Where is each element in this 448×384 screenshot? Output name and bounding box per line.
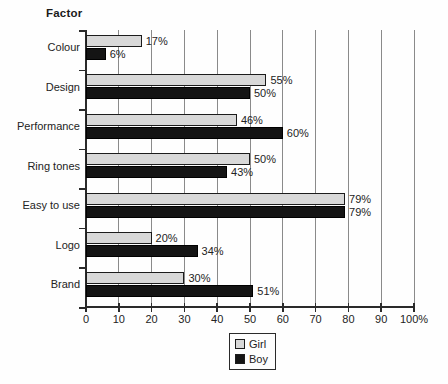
category-tick (79, 188, 85, 190)
x-tick-label-3: 30 (178, 313, 190, 325)
category-label-5: Logo (0, 239, 80, 252)
bar-girl-6-value-label: 30% (188, 272, 210, 284)
gridline-100 (414, 30, 415, 307)
bar-boy-5 (86, 245, 198, 257)
bar-girl-5-value-label: 20% (156, 232, 178, 244)
bar-girl-0 (86, 35, 142, 47)
plot-area: 17%6%55%50%46%60%50%43%79%79%20%34%30%51… (86, 30, 414, 307)
category-label-2: Performance (0, 120, 80, 133)
x-tick-label-8: 80 (342, 313, 354, 325)
legend: GirlBoy (229, 333, 276, 370)
x-axis-tick (249, 303, 251, 312)
x-tick-label-5: 50 (244, 313, 256, 325)
category-label-1: Design (0, 81, 80, 94)
x-axis-tick (348, 303, 350, 312)
bar-girl-6 (86, 272, 184, 284)
gridline-60 (282, 30, 283, 307)
x-axis-tick (282, 303, 284, 312)
bar-boy-2 (86, 127, 283, 139)
x-tick-label-7: 70 (309, 313, 321, 325)
x-axis-tick (118, 303, 120, 312)
bar-boy-3-value-label: 43% (231, 166, 253, 178)
gridline-70 (315, 30, 316, 307)
x-axis-tick (413, 303, 415, 312)
bar-girl-2-value-label: 46% (241, 114, 263, 126)
bar-boy-4 (86, 206, 345, 218)
legend-swatch-boy (235, 354, 245, 364)
category-tick (79, 228, 85, 230)
legend-item-girl: Girl (235, 338, 268, 350)
category-tick (79, 109, 85, 111)
legend-label-boy: Boy (249, 353, 268, 365)
bar-boy-5-value-label: 34% (202, 245, 224, 257)
x-tick-label-9: 90 (375, 313, 387, 325)
x-axis-tick (315, 303, 317, 312)
bar-boy-1-value-label: 50% (254, 87, 276, 99)
bar-girl-5 (86, 232, 152, 244)
legend-item-boy: Boy (235, 353, 268, 365)
x-tick-label-10: 100% (400, 313, 428, 325)
bar-boy-0 (86, 48, 106, 60)
bar-girl-1-value-label: 55% (270, 74, 292, 86)
bar-girl-0-value-label: 17% (146, 35, 168, 47)
legend-swatch-girl (235, 339, 245, 349)
chart-title: Factor (46, 7, 82, 19)
x-tick-label-1: 10 (113, 313, 125, 325)
x-tick-label-4: 40 (211, 313, 223, 325)
bar-boy-4-value-label: 79% (349, 206, 371, 218)
bar-boy-0-value-label: 6% (110, 48, 126, 60)
category-tick (79, 30, 85, 32)
category-tick (79, 267, 85, 269)
x-axis-tick (151, 303, 153, 312)
category-tick (79, 307, 85, 309)
x-axis-tick (85, 303, 87, 312)
legend-label-girl: Girl (249, 338, 266, 350)
x-tick-label-6: 60 (277, 313, 289, 325)
bar-girl-4-value-label: 79% (349, 193, 371, 205)
bar-boy-3 (86, 166, 227, 178)
x-tick-label-0: 0 (83, 313, 89, 325)
category-tick (79, 149, 85, 151)
category-label-3: Ring tones (0, 160, 80, 173)
bar-boy-2-value-label: 60% (287, 127, 309, 139)
bar-chart: Factor 17%6%55%50%46%60%50%43%79%79%20%3… (0, 0, 448, 384)
bar-boy-6 (86, 285, 253, 297)
bar-girl-2 (86, 114, 237, 126)
x-axis-tick (216, 303, 218, 312)
bar-girl-3 (86, 153, 250, 165)
gridline-80 (348, 30, 349, 307)
x-axis-tick (184, 303, 186, 312)
category-label-6: Brand (0, 278, 80, 291)
bar-girl-4 (86, 193, 345, 205)
bar-girl-3-value-label: 50% (254, 153, 276, 165)
category-tick (79, 70, 85, 72)
gridline-90 (381, 30, 382, 307)
bar-girl-1 (86, 74, 266, 86)
x-axis-tick (380, 303, 382, 312)
bar-boy-6-value-label: 51% (257, 285, 279, 297)
category-label-0: Colour (0, 41, 80, 54)
category-label-4: Easy to use (0, 199, 80, 212)
x-tick-label-2: 20 (145, 313, 157, 325)
bar-boy-1 (86, 87, 250, 99)
